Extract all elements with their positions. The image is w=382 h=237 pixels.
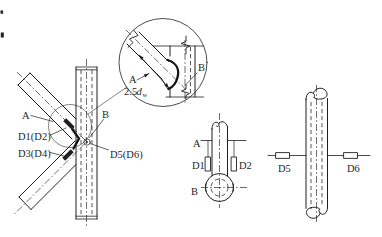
coped-tube-end-bottom (306, 207, 327, 218)
detail-label-a: A (129, 74, 137, 85)
left-joint-view: A B D1(D2) D3(D4) D5(D6) (13, 59, 143, 228)
cross-section-circle (201, 174, 247, 202)
detail-weld-bead (168, 60, 179, 89)
label-d5: D5 (278, 163, 291, 174)
section-line-a (201, 141, 246, 158)
label-d2: D2 (239, 160, 252, 171)
scan-artifact (1, 11, 4, 14)
label-d5d6: D5(D6) (110, 149, 143, 161)
detail-balloon: 2.5 d w A B (119, 19, 207, 107)
strain-gauge-d5 (276, 153, 290, 159)
label-d1: D1 (192, 160, 205, 171)
label-d5d6-leader (90, 144, 109, 151)
left-label-b: B (102, 109, 109, 120)
left-label-a: A (22, 110, 30, 121)
detail-a-arrowhead (144, 74, 149, 78)
strain-gauge-d6 (344, 153, 358, 159)
brace-view-label-a: A (193, 138, 201, 149)
chord-tube (76, 59, 97, 228)
label-d6: D6 (347, 163, 360, 174)
label-d1d2: D1(D2) (18, 131, 51, 143)
strain-gauge-d2 (232, 157, 237, 171)
diagram-canvas: A B D1(D2) D3(D4) D5(D6) (0, 0, 382, 237)
detail-label-b: B (198, 62, 205, 73)
label-d3d4: D3(D4) (18, 148, 51, 160)
joint-diagram: A B D1(D2) D3(D4) D5(D6) (0, 0, 382, 237)
chord-elevation-view: D5 D6 (268, 85, 370, 224)
dimension-subscript: w (143, 91, 148, 98)
break-symbol-top (181, 36, 190, 54)
strain-gauge-d3d4 (62, 149, 73, 160)
dimension-prefix: 2.5 (124, 86, 137, 97)
scan-artifact (1, 33, 4, 38)
strain-gauge-d1 (206, 157, 211, 171)
label-d1d2-leader (51, 128, 67, 135)
brace-view-label-b: B (191, 186, 198, 197)
strain-gauge-d1d2 (63, 118, 74, 129)
brace-elevation-view: A B D1 D2 (191, 113, 252, 208)
